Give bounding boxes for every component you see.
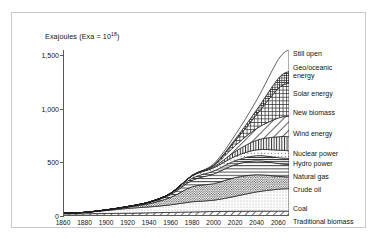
y-axis-tick-label: 1,500 bbox=[41, 52, 59, 59]
plot-frame bbox=[63, 50, 289, 216]
x-axis-tick-label: 1980 bbox=[185, 219, 200, 226]
y-axis-title: Exajoules (Exa = 1018) bbox=[45, 32, 119, 41]
legend-item: Traditional biomass bbox=[293, 218, 353, 226]
y-axis-tick-mark bbox=[60, 55, 64, 56]
x-axis-tick-label: 1880 bbox=[77, 219, 92, 226]
legend-item: Solar energy bbox=[293, 90, 333, 98]
legend-item: Natural gas bbox=[293, 173, 329, 181]
x-axis-tick-label: 2020 bbox=[228, 219, 243, 226]
legend-item: Nuclear power bbox=[293, 150, 338, 158]
x-axis-tick-label: 1920 bbox=[120, 219, 135, 226]
x-axis-tick-labels: 1860188019001920194019601980200020202040… bbox=[63, 219, 289, 231]
chart-legend: Still openGeo/oceanic energySolar energy… bbox=[293, 50, 376, 220]
x-axis-tick-label: 1960 bbox=[163, 219, 178, 226]
y-axis-tick-mark bbox=[60, 109, 64, 110]
y-axis-tick-mark bbox=[60, 216, 64, 217]
figure-panel: Exajoules (Exa = 1018) 05001,0001,500 bbox=[11, 12, 366, 228]
plot-area bbox=[63, 50, 289, 216]
y-axis-title-tail: ) bbox=[117, 32, 120, 41]
x-axis-tick-label: 1860 bbox=[56, 219, 71, 226]
x-axis-tick-label: 1940 bbox=[142, 219, 157, 226]
legend-item: Crude oil bbox=[293, 186, 321, 194]
y-axis-tick-mark bbox=[60, 162, 64, 163]
x-axis-tick-label: 2040 bbox=[249, 219, 264, 226]
legend-item: New biomass bbox=[293, 109, 335, 117]
legend-item: Hydro power bbox=[293, 160, 333, 168]
legend-item: Geo/oceanic energy bbox=[293, 64, 353, 81]
x-axis-tick-label: 2060 bbox=[271, 219, 286, 226]
x-axis-tick-label: 2000 bbox=[206, 219, 221, 226]
y-axis-tick-label: 1,000 bbox=[41, 105, 59, 112]
legend-item: Wind energy bbox=[293, 130, 332, 138]
y-axis-tick-label: 500 bbox=[47, 159, 59, 166]
legend-item: Still open bbox=[293, 50, 322, 58]
x-axis-tick-label: 1900 bbox=[99, 219, 114, 226]
y-axis-title-text: Exajoules (Exa = 10 bbox=[45, 32, 111, 41]
y-axis-tick-labels: 05001,0001,500 bbox=[34, 50, 59, 216]
legend-item: Coal bbox=[293, 205, 307, 213]
